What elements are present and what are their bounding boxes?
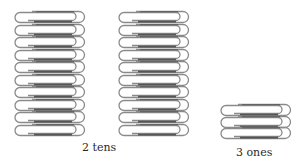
paper-clip-icon (12, 123, 86, 141)
paper-clip-icon (218, 126, 292, 144)
tens-label: 2 tens (82, 141, 116, 154)
paper-clip-icon (116, 123, 190, 141)
ones-label: 3 ones (236, 146, 272, 159)
ones-stack (218, 103, 292, 139)
tens-stack-1 (12, 10, 86, 138)
tens-stack-2 (116, 10, 190, 138)
